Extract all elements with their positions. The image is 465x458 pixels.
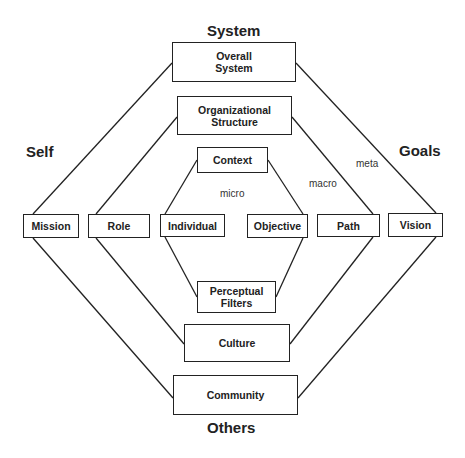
label-self: Self: [26, 143, 54, 160]
line-overall-vision: [296, 63, 436, 213]
label-others: Others: [207, 419, 255, 436]
box-individual: Individual: [160, 214, 225, 237]
line-community-vision: [298, 237, 436, 398]
label-macro: macro: [309, 178, 337, 189]
line-culture-path: [290, 237, 373, 344]
label-goals: Goals: [399, 142, 441, 159]
box-overall-system: Overall System: [172, 42, 296, 82]
box-culture: Culture: [184, 324, 290, 362]
box-organizational-structure: Organizational Structure: [177, 96, 292, 135]
line-mission-community: [33, 238, 173, 398]
box-vision: Vision: [388, 213, 443, 237]
label-meta: meta: [356, 158, 378, 169]
line-context-objective: [268, 160, 303, 214]
label-micro: micro: [220, 188, 244, 199]
line-perceptual-objective: [276, 238, 303, 297]
box-perceptual-filters: Perceptual Filters: [197, 281, 276, 313]
label-system: System: [207, 22, 260, 39]
line-individual-perceptual: [165, 237, 197, 297]
box-community: Community: [173, 375, 298, 415]
line-individual-context: [165, 160, 197, 214]
box-objective: Objective: [247, 214, 308, 238]
box-path: Path: [317, 214, 380, 237]
box-context: Context: [197, 147, 268, 173]
box-role: Role: [88, 214, 150, 238]
box-mission: Mission: [23, 214, 79, 238]
line-mission-overall: [33, 63, 172, 214]
line-role-culture: [96, 238, 184, 344]
